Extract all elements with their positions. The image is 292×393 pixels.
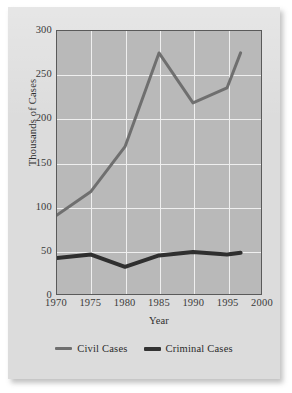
y-tick-label: 100 (8, 202, 52, 213)
criminal-line-swatch-icon (144, 347, 161, 351)
y-tick-label: 50 (8, 246, 52, 257)
chart-legend: Civil Cases Criminal Cases (28, 343, 260, 354)
series-line-civil-cases (57, 53, 241, 215)
chart-card-surface: 050100150200250300 197019751980198519901… (8, 7, 280, 379)
screenshot-root: 050100150200250300 197019751980198519901… (0, 0, 292, 393)
chart-card: 050100150200250300 197019751980198519901… (8, 7, 280, 379)
plot-area (56, 30, 262, 295)
legend-label-criminal-cases: Criminal Cases (166, 343, 233, 354)
series-canvas (57, 31, 261, 294)
y-tick-label: 300 (8, 25, 52, 36)
x-tick-label: 2000 (242, 298, 282, 309)
civil-line-swatch-icon (55, 347, 72, 350)
x-axis-title: Year (56, 315, 262, 326)
legend-entry-criminal-cases: Criminal Cases (144, 343, 233, 354)
series-line-criminal-cases (57, 252, 241, 267)
x-axis-ticks: 1970197519801985199019952000 (56, 298, 262, 314)
legend-entry-civil-cases: Civil Cases (55, 343, 127, 354)
y-axis-title: Thousands of Cases (27, 53, 38, 193)
line-chart-figure: 050100150200250300 197019751980198519901… (8, 7, 280, 379)
legend-label-civil-cases: Civil Cases (77, 343, 127, 354)
